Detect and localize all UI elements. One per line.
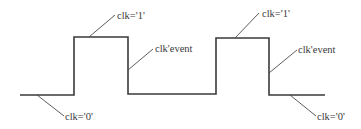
leader-line-event-1 — [128, 49, 153, 70]
label-clk-event-1: clk'event — [155, 43, 193, 54]
annotation-clk-event-1: clk'event — [128, 43, 193, 70]
annotation-clk-low-2: clk='0' — [290, 95, 345, 122]
annotation-clk-event-2: clk'event — [269, 44, 336, 73]
label-clk-high-2: clk='1' — [262, 8, 290, 19]
leader-line-high-1 — [89, 15, 115, 37]
annotation-clk-high-2: clk='1' — [235, 8, 290, 38]
clock-waveform-diagram: clk='0' clk='1' clk'event clk='1' clk'ev… — [0, 0, 361, 129]
leader-line-event-2 — [269, 50, 297, 73]
leader-line-high-2 — [235, 13, 259, 38]
leader-line-low-1 — [37, 95, 64, 116]
label-clk-high-1: clk='1' — [117, 10, 145, 21]
annotation-clk-high-1: clk='1' — [89, 10, 145, 37]
leader-line-low-2 — [290, 95, 316, 116]
label-clk-low-1: clk='0' — [65, 111, 93, 122]
label-clk-low-2: clk='0' — [317, 111, 345, 122]
label-clk-event-2: clk'event — [298, 44, 336, 55]
annotations-group: clk='0' clk='1' clk'event clk='1' clk'ev… — [37, 8, 345, 122]
annotation-clk-low-1: clk='0' — [37, 95, 93, 122]
